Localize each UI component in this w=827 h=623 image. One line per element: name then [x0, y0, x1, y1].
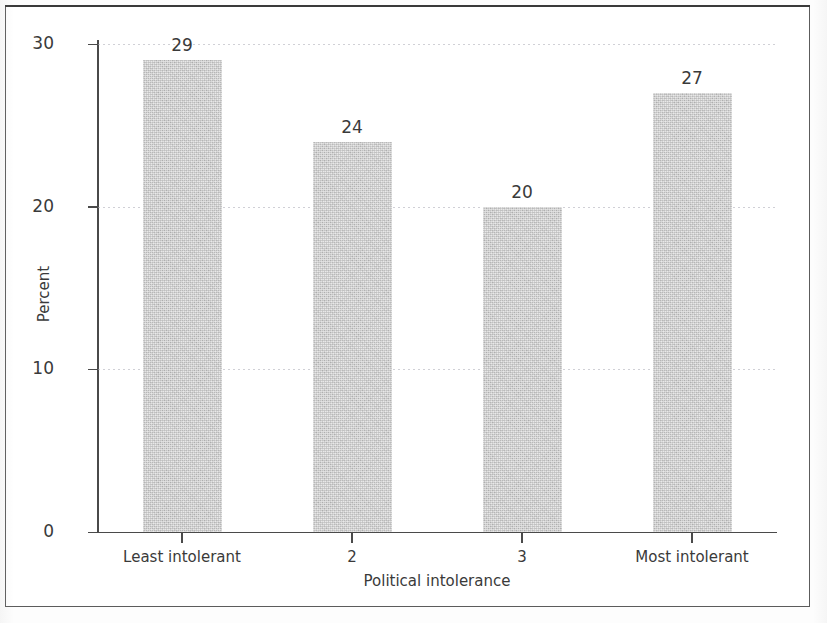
y-tick-mark	[88, 369, 98, 371]
y-tick-label: 0	[14, 523, 54, 540]
x-tick-label: 3	[437, 548, 607, 566]
y-tick-mark	[88, 44, 98, 46]
x-tick-label: Most intolerant	[607, 548, 777, 566]
y-tick-mark	[88, 206, 98, 208]
x-axis-title: Political intolerance	[97, 572, 777, 590]
scanned-figure-page: 0102030 Percent 29242027 Least intoleran…	[0, 0, 827, 623]
y-axis-line	[97, 40, 99, 533]
y-tick-label: 10	[14, 360, 54, 377]
bar-value-label: 27	[653, 70, 732, 87]
x-tick-mark	[691, 533, 693, 543]
x-tick-label: Least intolerant	[97, 548, 267, 566]
y-tick-mark	[88, 532, 98, 534]
bar-value-label: 24	[313, 119, 392, 136]
x-tick-label: 2	[267, 548, 437, 566]
bar-value-label: 20	[483, 184, 562, 201]
bar	[483, 207, 562, 532]
y-tick-label: 20	[14, 198, 54, 215]
y-tick-label: 30	[14, 35, 54, 52]
x-tick-mark	[521, 533, 523, 543]
bar	[143, 60, 222, 532]
bar	[653, 93, 732, 532]
x-tick-mark	[351, 533, 353, 543]
y-axis-title: Percent	[35, 234, 53, 354]
bar-chart: 0102030 Percent 29242027 Least intoleran…	[0, 0, 827, 623]
bar-value-label: 29	[143, 37, 222, 54]
bar	[313, 142, 392, 532]
x-tick-mark	[181, 533, 183, 543]
